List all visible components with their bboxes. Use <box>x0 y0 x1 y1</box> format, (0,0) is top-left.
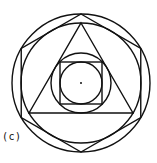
geometry-svg <box>0 0 157 163</box>
triangle <box>29 23 133 113</box>
figure-label: (c) <box>2 131 22 142</box>
center-dot <box>80 82 82 84</box>
nested-polygons-figure: (c) <box>0 0 157 163</box>
